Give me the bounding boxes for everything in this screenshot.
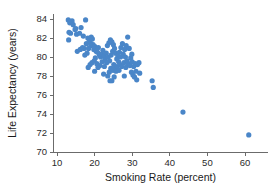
data-point [101, 72, 106, 77]
data-point [73, 26, 78, 31]
data-point [80, 45, 85, 50]
data-point [68, 31, 73, 36]
data-points-group [66, 17, 252, 137]
data-point [129, 52, 134, 57]
x-tick-label: 10 [52, 157, 63, 168]
data-point [96, 45, 101, 50]
y-axis-ticks: 7072747678808284 [36, 13, 53, 157]
scatter-plot-figure: 7072747678808284102030405060Smoking Rate… [0, 0, 277, 190]
x-tick-label: 60 [240, 157, 251, 168]
data-point [102, 64, 107, 69]
data-point [107, 58, 112, 63]
data-point [78, 25, 83, 30]
data-point [107, 78, 112, 83]
data-point [180, 110, 185, 115]
data-point [92, 69, 97, 74]
data-point [125, 34, 130, 39]
data-point [116, 68, 121, 73]
y-tick-label: 72 [36, 127, 47, 138]
x-tick-label: 20 [89, 157, 100, 168]
y-tick-label: 78 [36, 70, 47, 81]
data-point [122, 73, 127, 78]
data-point [112, 46, 117, 51]
data-point [137, 71, 142, 76]
data-point [90, 36, 95, 41]
data-point [134, 77, 139, 82]
data-point [81, 34, 86, 39]
data-point [86, 65, 91, 70]
y-tick-label: 76 [36, 89, 47, 100]
data-point [136, 60, 141, 65]
x-tick-label: 40 [165, 157, 176, 168]
data-point [150, 78, 155, 83]
data-point [246, 132, 251, 137]
chart-canvas: 7072747678808284102030405060Smoking Rate… [0, 0, 277, 190]
x-axis-ticks: 102030405060 [52, 152, 251, 168]
x-axis-title: Smoking Rate (percent) [105, 171, 216, 183]
y-tick-label: 82 [36, 32, 47, 43]
x-tick-label: 30 [127, 157, 138, 168]
data-point [82, 53, 87, 58]
data-point [151, 85, 156, 90]
y-tick-label: 74 [36, 108, 47, 119]
data-point [83, 17, 88, 22]
y-tick-label: 70 [36, 146, 47, 157]
data-point [66, 37, 71, 42]
y-axis-title: Life Expectancy (years) [6, 28, 18, 138]
x-tick-label: 50 [202, 157, 213, 168]
y-tick-label: 84 [36, 13, 47, 24]
y-tick-label: 80 [36, 51, 47, 62]
data-point [86, 46, 91, 51]
data-point [127, 46, 132, 51]
